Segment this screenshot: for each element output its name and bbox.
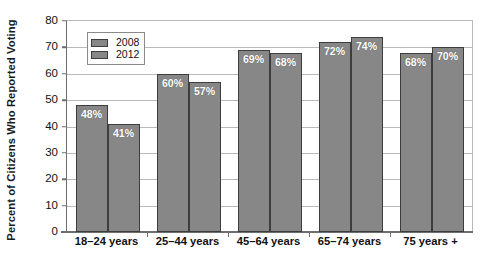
x-axis-category-label: 65–74 years <box>318 235 381 247</box>
bar-value-label: 68% <box>401 57 431 69</box>
y-axis-tick: 40 <box>34 121 67 133</box>
y-axis-tick-label: 40 <box>34 121 62 133</box>
legend-swatch-2012 <box>91 51 108 59</box>
y-axis-title: Percent of Citizens Who Reported Voting <box>0 0 22 260</box>
x-axis-category-label: 75 years + <box>403 235 457 247</box>
y-axis-tick-label: 20 <box>34 174 62 186</box>
bar-value-label: 68% <box>271 57 301 69</box>
y-axis-tick: 80 <box>34 15 67 27</box>
y-axis-tick-label: 30 <box>34 147 62 159</box>
y-axis-tick-label: 0 <box>34 226 62 238</box>
bar-value-label: 70% <box>433 51 463 63</box>
bar-value-label: 69% <box>239 54 269 66</box>
x-axis-tick-mark <box>228 232 229 237</box>
x-axis-category-label: 18–24 years <box>75 235 138 247</box>
y-axis-tick: 70 <box>34 42 67 54</box>
y-axis-tick-label: 10 <box>34 200 62 212</box>
x-axis-tick-mark <box>390 232 391 237</box>
y-axis-tick: 0 <box>34 226 67 238</box>
y-axis-tick: 20 <box>34 174 67 186</box>
bar-value-label: 48% <box>77 109 107 121</box>
bar[interactable]: 68% <box>400 53 432 232</box>
y-axis-tick: 60 <box>34 68 67 80</box>
y-axis-tick-label: 70 <box>34 42 62 54</box>
legend-label-2012: 2012 <box>116 49 139 60</box>
x-axis-tick-mark <box>147 232 148 237</box>
y-axis-tick-label: 50 <box>34 94 62 106</box>
bar[interactable]: 57% <box>189 82 221 232</box>
bar-value-label: 57% <box>190 86 220 98</box>
x-axis-category-label: 25–44 years <box>156 235 219 247</box>
bar[interactable]: 60% <box>157 74 189 232</box>
x-axis-tick-mark <box>309 232 310 237</box>
legend: 2008 2012 <box>87 32 145 65</box>
y-axis-tick: 10 <box>34 200 67 212</box>
legend-item-2012[interactable]: 2012 <box>91 49 140 60</box>
bar[interactable]: 74% <box>351 37 383 232</box>
bar-chart: Percent of Citizens Who Reported Voting … <box>0 0 488 260</box>
bar[interactable]: 68% <box>270 53 302 232</box>
bar-value-label: 41% <box>109 128 139 140</box>
bar[interactable]: 72% <box>319 42 351 232</box>
y-axis-tick-label: 80 <box>34 15 62 27</box>
bar[interactable]: 70% <box>432 47 464 232</box>
y-axis-tick: 50 <box>34 94 67 106</box>
y-axis-tick: 30 <box>34 147 67 159</box>
bar-value-label: 60% <box>158 78 188 90</box>
plot-right-border <box>472 20 473 233</box>
y-axis-tick-label: 60 <box>34 68 62 80</box>
bar-value-label: 74% <box>352 41 382 53</box>
bar[interactable]: 41% <box>108 124 140 232</box>
legend-item-2008[interactable]: 2008 <box>91 37 140 48</box>
bar-value-label: 72% <box>320 46 350 58</box>
legend-label-2008: 2008 <box>116 37 139 48</box>
x-axis-category-label: 45–64 years <box>237 235 300 247</box>
bar[interactable]: 48% <box>76 105 108 232</box>
legend-swatch-2008 <box>91 39 108 47</box>
bar[interactable]: 69% <box>238 50 270 232</box>
